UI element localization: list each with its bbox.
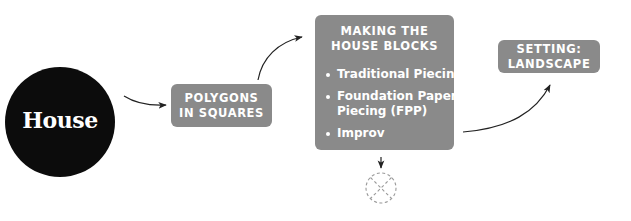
- making-title-line-1: MAKING THE: [325, 24, 448, 39]
- technique-item-fpp: Foundation PaperPiecing (FPP): [325, 89, 448, 119]
- setting-title-line-2: LANDSCAPE: [498, 57, 600, 72]
- technique-item-improv: Improv: [325, 126, 448, 141]
- polygons-title-line-1: POLYGONS: [171, 91, 272, 106]
- polygons-title-line-2: IN SQUARES: [171, 106, 272, 121]
- arrow-polygons-to-making: [258, 37, 302, 80]
- arrow-making-to-setting: [463, 85, 550, 132]
- technique-list: Traditional Piecing Foundation PaperPiec…: [325, 67, 448, 141]
- technique-item-traditional: Traditional Piecing: [325, 67, 448, 82]
- arrow-house-to-polygons: [124, 96, 166, 105]
- house-node: House: [5, 67, 115, 177]
- dashed-x-circle-icon: [366, 173, 396, 203]
- polygons-in-squares-node: POLYGONS IN SQUARES: [171, 84, 272, 127]
- making-house-blocks-node: MAKING THE HOUSE BLOCKS Traditional Piec…: [315, 15, 454, 150]
- setting-title-line-1: SETTING:: [498, 42, 600, 57]
- making-title-line-2: HOUSE BLOCKS: [325, 39, 448, 54]
- house-label: House: [22, 107, 97, 133]
- setting-landscape-node: SETTING: LANDSCAPE: [498, 40, 600, 73]
